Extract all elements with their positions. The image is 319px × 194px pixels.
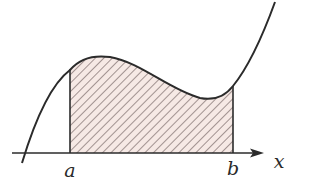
label-a: a (64, 159, 75, 181)
area-under-curve-diagram: a b x (0, 0, 319, 194)
label-x-axis: x (274, 150, 285, 172)
label-b: b (227, 157, 239, 179)
shaded-area-region (70, 56, 233, 153)
